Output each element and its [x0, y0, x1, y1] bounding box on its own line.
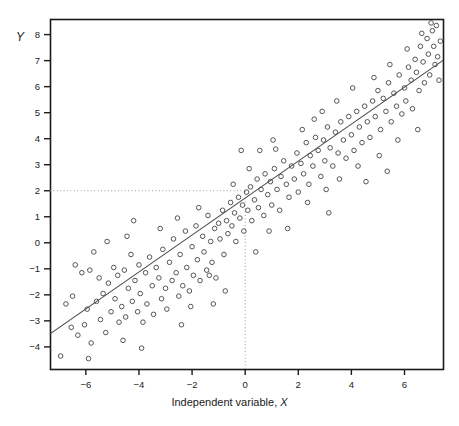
scatter-point: [255, 177, 260, 182]
scatter-point: [133, 278, 138, 283]
scatter-point: [163, 286, 168, 291]
scatter-points-group: [58, 21, 442, 361]
y-axis-tick-label: 7: [18, 55, 40, 66]
scatter-point: [240, 203, 245, 208]
scatter-point: [246, 208, 251, 213]
scatter-point: [214, 276, 219, 281]
scatter-point: [253, 250, 258, 255]
x-axis-title-variable: X: [280, 396, 287, 408]
scatter-point: [415, 127, 420, 132]
scatter-point: [265, 192, 270, 197]
scatter-point: [135, 309, 140, 314]
scatter-point: [98, 317, 103, 322]
scatter-point: [328, 146, 333, 151]
scatter-point: [252, 198, 257, 203]
scatter-point: [154, 265, 159, 270]
scatter-point: [113, 296, 118, 301]
scatter-point: [346, 114, 351, 119]
scatter-point: [336, 151, 341, 156]
scatter-point: [123, 315, 128, 320]
scatter-point: [80, 270, 85, 275]
scatter-point: [426, 52, 431, 57]
y-axis-tick-label: 1: [18, 211, 40, 222]
scatter-point: [236, 195, 241, 200]
scatter-point: [292, 177, 297, 182]
scatter-point: [176, 294, 181, 299]
scatter-point: [434, 23, 439, 28]
scatter-point: [115, 273, 120, 278]
x-axis-tick-label: 4: [338, 379, 364, 390]
scatter-point: [92, 250, 97, 255]
scatter-point: [368, 135, 373, 140]
scatter-point: [287, 195, 292, 200]
scatter-point: [207, 273, 212, 278]
scatter-point: [180, 283, 185, 288]
scatter-point: [425, 36, 430, 41]
regression-line: [50, 60, 443, 333]
scatter-point: [147, 255, 152, 260]
scatter-point: [263, 172, 268, 177]
scatter-point: [216, 221, 221, 226]
scatter-point: [239, 148, 244, 153]
scatter-point: [311, 164, 316, 169]
scatter-point: [119, 304, 124, 309]
scatter-point: [103, 330, 108, 335]
scatter-point: [430, 28, 435, 33]
scatter-point: [313, 135, 318, 140]
scatter-point: [141, 320, 146, 325]
scatter-point: [389, 119, 394, 124]
scatter-point: [431, 44, 436, 49]
scatter-point: [125, 234, 130, 239]
scatter-point: [320, 109, 325, 114]
scatter-point: [323, 159, 328, 164]
y-axis-tick-label: −1: [18, 263, 40, 274]
scatter-point: [218, 237, 223, 242]
scatter-point: [138, 291, 143, 296]
scatter-point: [410, 106, 415, 111]
y-axis-tick-label: 4: [18, 133, 40, 144]
scatter-point: [234, 239, 239, 244]
scatter-point: [307, 182, 312, 187]
scatter-point: [187, 289, 192, 294]
scatter-point: [312, 117, 317, 122]
scatter-point: [224, 218, 229, 223]
scatter-point: [228, 200, 233, 205]
scatter-point: [143, 270, 148, 275]
scatter-point: [195, 257, 200, 262]
scatter-point: [188, 304, 193, 309]
scatter-point: [191, 273, 196, 278]
scatter-point: [145, 302, 150, 307]
scatter-point: [305, 200, 310, 205]
scatter-point: [121, 338, 126, 343]
scatter-point: [257, 148, 262, 153]
y-axis-tick-label: −3: [18, 315, 40, 326]
scatter-point: [131, 218, 136, 223]
scatter-point: [82, 322, 87, 327]
scatter-point: [319, 174, 324, 179]
scatter-point: [413, 57, 418, 62]
scatter-point: [376, 88, 381, 93]
scatter-point: [175, 216, 180, 221]
scatter-point: [373, 114, 378, 119]
y-axis-tick-label: −4: [18, 341, 40, 352]
scatter-point: [341, 138, 346, 143]
scatter-point: [360, 140, 365, 145]
scatter-point: [285, 226, 290, 231]
scatter-point: [198, 278, 203, 283]
scatter-point: [350, 86, 355, 91]
scatter-point: [238, 216, 243, 221]
scatter-point: [357, 125, 362, 130]
scatter-point: [97, 276, 102, 281]
scatter-point: [419, 31, 424, 36]
scatter-point: [76, 333, 81, 338]
scatter-point: [208, 239, 213, 244]
scatter-point: [295, 151, 300, 156]
y-axis-tick-label: 6: [18, 81, 40, 92]
scatter-point: [352, 148, 357, 153]
scatter-point: [230, 224, 235, 229]
scatter-point: [417, 88, 422, 93]
x-axis-tick-label: 2: [285, 379, 311, 390]
scatter-point: [178, 252, 183, 257]
scatter-point: [70, 294, 75, 299]
scatter-point: [109, 309, 114, 314]
